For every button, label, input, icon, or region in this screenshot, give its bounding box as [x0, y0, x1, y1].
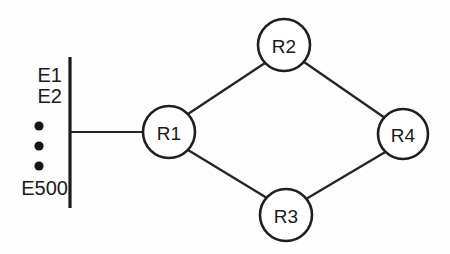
edge-group — [188, 62, 387, 199]
node-r2[interactable]: R2 — [258, 19, 310, 71]
host-label-e500: E500 — [21, 177, 68, 199]
node-r3-label: R3 — [274, 206, 298, 227]
host-label-e2: E2 — [38, 85, 62, 107]
ellipsis-dot-1 — [34, 121, 43, 130]
edge-r2-r4 — [304, 62, 385, 118]
node-r4-label: R4 — [391, 125, 416, 146]
node-r4[interactable]: R4 — [378, 109, 428, 159]
ellipsis-dot-2 — [34, 141, 43, 150]
host-label-e1: E1 — [38, 64, 62, 86]
network-diagram-canvas: E1 E2 E500 R1 R2 R3 R4 — [0, 0, 450, 254]
edge-r1-r2 — [188, 63, 265, 114]
node-r1[interactable]: R1 — [143, 106, 195, 158]
edge-r3-r4 — [306, 151, 387, 199]
ellipsis-dot-3 — [34, 161, 43, 170]
edge-r1-r3 — [188, 150, 267, 198]
node-r2-label: R2 — [272, 36, 296, 57]
node-r1-label: R1 — [157, 123, 181, 144]
network-diagram-svg: E1 E2 E500 R1 R2 R3 R4 — [0, 0, 450, 254]
host-label-group: E1 E2 E500 — [21, 64, 68, 199]
node-r3[interactable]: R3 — [260, 189, 312, 241]
ellipsis-dots — [34, 121, 43, 170]
